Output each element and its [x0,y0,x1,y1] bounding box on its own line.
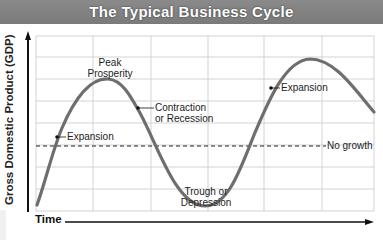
peak-label-line2: Prosperity [85,68,135,79]
x-axis-label: Time [35,213,62,225]
contraction-label-line2: or Recession [155,113,213,124]
page-edge [0,210,6,240]
expansion-right-label: Expansion [281,82,328,93]
trough-label-line2: Depression [178,197,234,208]
expansion-left-label: Expansion [67,131,114,142]
x-axis [65,219,374,225]
contraction-label-line1: Contraction [155,102,213,113]
trough-label: Trough or Depression [178,186,234,208]
trough-label-line1: Trough or [178,186,234,197]
no-growth-label: No growth [327,140,373,151]
contraction-label: Contraction or Recession [155,102,213,124]
peak-label-line1: Peak [85,57,135,68]
y-axis [25,31,31,212]
y-axis-label: Gross Domestic Product (GDP) [3,35,19,205]
peak-label: Peak Prosperity [85,57,135,79]
